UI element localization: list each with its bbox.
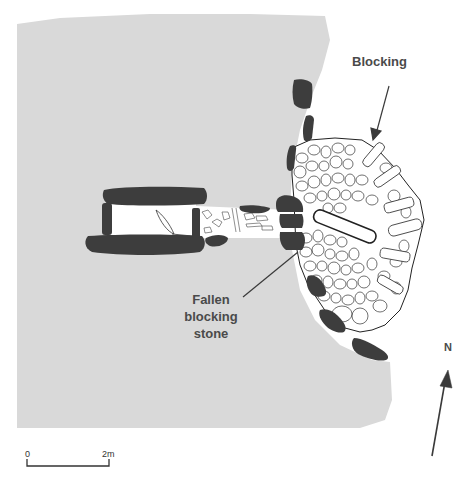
scale-start-label: 0 [25,449,30,459]
blocking-pointer-arrowhead [371,128,381,140]
blocking-pointer-line [376,86,389,134]
scale-bar [27,459,109,466]
fallen-label-line3: stone [178,325,244,342]
north-label: N [444,342,452,354]
north-arrowhead-icon [440,370,452,388]
fallen-blocking-stone-label: Fallen blocking stone [178,291,244,342]
site-plan [0,0,472,484]
scale-end-label: 2m [102,449,115,459]
chamber-floor [108,203,196,237]
fallen-label-line2: blocking [178,308,244,325]
fallen-label-line1: Fallen [178,291,244,308]
north-arrow [432,370,452,456]
blocking-rubble [292,138,424,332]
blocking-label: Blocking [352,55,407,69]
